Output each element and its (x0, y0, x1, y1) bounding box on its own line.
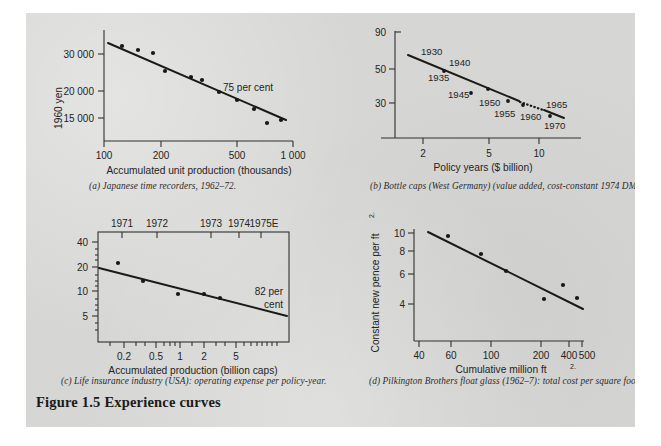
panel-c-ylabel-40: 40 (77, 237, 89, 248)
panel-a-xlabel-200: 200 (153, 150, 170, 161)
panel-c-life-insurance: 1971 1972 1973 1974 1975E (26, 203, 331, 388)
panel-a-ylabel-30000: 30 000 (63, 49, 94, 60)
panel-c-ylabel-10: 10 (77, 286, 89, 297)
panel-c-toplabel-1975e: 1975E (250, 218, 279, 229)
panel-d-ylabel-6: 6 (399, 269, 405, 280)
data-point (163, 69, 167, 73)
panel-b-chart: 90 50 30 2 5 10 Policy years ($ billion) (331, 13, 635, 188)
panel-c-data-points (116, 261, 222, 300)
panel-b-ylabel-50: 50 (375, 64, 387, 75)
panel-c-xlabel-1: 1 (177, 351, 183, 362)
panel-b-xlabel-5: 5 (486, 148, 492, 159)
data-point (446, 234, 450, 238)
panel-c-xlabel-0-2: 0.2 (117, 351, 131, 362)
data-point (506, 99, 510, 103)
panel-b-xlabel-2: 2 (420, 148, 426, 159)
panel-d-xlabel-400: 400 (561, 350, 578, 361)
panel-b-point-label-1970: 1970 (544, 120, 565, 131)
panel-b-point-label-1935: 1935 (428, 72, 449, 83)
panel-d-ylabel-superscript: 2. (368, 212, 375, 218)
panel-c-ylabel-20: 20 (77, 262, 89, 273)
panel-c-toplabel-1973: 1973 (200, 218, 223, 229)
panel-d-xlabel-200: 200 (533, 350, 550, 361)
panel-a-japanese-time-recorders: 1960 yen 30 000 20 000 15 000 100 200 50… (26, 13, 331, 188)
panel-c-x-minor-ticks (110, 342, 277, 346)
panel-b-xlabel: Policy years ($ billion) (433, 162, 532, 173)
panel-a-ylabel: 1960 yen (53, 87, 64, 129)
panel-d-ylabel-4: 4 (399, 299, 405, 310)
panel-d-caption: (d) Pilkington Brothers float glass (196… (369, 376, 635, 386)
panel-b-point-label-1945: 1945 (448, 89, 469, 100)
panel-c-xlabel: Accumulated production (billion caps) (108, 365, 277, 376)
panel-a-xlabel-500: 500 (229, 150, 246, 161)
panel-a-annotation: 75 per cent (223, 82, 273, 93)
panel-d-xlabel-superscript: 2. (570, 363, 576, 370)
panel-d-pilkington-float-glass: Constant new pence per ft 2. 10 8 6 4 (331, 203, 635, 388)
data-point (521, 103, 525, 107)
data-point (279, 118, 283, 122)
panel-b-point-label-1965: 1965 (546, 99, 567, 110)
scanned-book-page: 1960 yen 30 000 20 000 15 000 100 200 50… (26, 13, 635, 427)
data-point (151, 51, 155, 55)
panel-a-chart: 1960 yen 30 000 20 000 15 000 100 200 50… (26, 13, 331, 188)
panel-c-toplabel-1972: 1972 (146, 218, 169, 229)
data-point (116, 261, 120, 265)
data-point (189, 75, 193, 79)
panel-d-ylabel-10: 10 (394, 228, 406, 239)
panel-c-xlabel-5: 5 (233, 351, 239, 362)
data-point (504, 269, 508, 273)
data-point (575, 296, 579, 300)
data-point (200, 78, 204, 82)
data-point (479, 252, 483, 256)
data-point (265, 121, 269, 125)
data-point (548, 114, 552, 118)
panel-b-xlabel-10: 10 (533, 148, 545, 159)
panel-a-xlabel-100: 100 (96, 150, 113, 161)
panel-c-ylabel-5: 5 (82, 311, 88, 322)
panel-c-annotation-line1: 82 per (255, 286, 284, 297)
panel-b-point-label-1950: 1950 (479, 97, 500, 108)
panel-c-xlabel-2: 2 (201, 351, 207, 362)
data-point (561, 283, 565, 287)
data-point (120, 44, 124, 48)
data-point (542, 297, 546, 301)
panel-b-ylabel-30: 30 (375, 98, 387, 109)
panel-d-chart: Constant new pence per ft 2. 10 8 6 4 (331, 203, 635, 388)
data-point (218, 296, 222, 300)
panel-d-data-points (446, 234, 579, 301)
data-point (202, 292, 206, 296)
panel-a-xlabel: Accumulated unit production (thousands) (106, 165, 291, 176)
panel-d-xlabel-500: 500 (579, 350, 596, 361)
panel-b-point-label-1930: 1930 (421, 46, 442, 57)
panel-d-xlabel-100: 100 (483, 350, 500, 361)
panel-b-bottle-caps: 90 50 30 2 5 10 Policy years ($ billion) (331, 13, 635, 188)
panel-b-point-label-1940: 1940 (449, 57, 470, 68)
panel-a-ylabel-15000: 15 000 (63, 113, 94, 124)
data-point (217, 90, 221, 94)
data-point (469, 91, 473, 95)
panel-c-caption: (c) Life insurance industry (USA): opera… (61, 376, 326, 386)
panel-c-toplabel-1971: 1971 (111, 218, 134, 229)
panel-b-point-label-1955: 1955 (494, 108, 515, 119)
data-point (136, 48, 140, 52)
page-canvas: 1960 yen 30 000 20 000 15 000 100 200 50… (0, 0, 661, 446)
panel-d-xlabel-40: 40 (413, 350, 425, 361)
panel-b-ylabel-90: 90 (375, 27, 387, 38)
figure-title: Figure 1.5 Experience curves (36, 394, 221, 411)
panel-b-caption: (b) Bottle caps (West Germany) (value ad… (370, 181, 635, 191)
panel-c-annotation-line2: cent (264, 299, 283, 310)
panel-d-xlabel-60: 60 (445, 350, 457, 361)
panel-a-xlabel-1000: 1 000 (280, 150, 305, 161)
data-point (141, 279, 145, 283)
panel-c-chart: 1971 1972 1973 1974 1975E (26, 203, 331, 388)
data-point (176, 292, 180, 296)
panel-a-caption: (a) Japanese time recorders, 1962–72. (89, 181, 236, 191)
panel-d-xlabel: Cumulative million ft (455, 364, 546, 375)
panel-c-xlabel-0-5: 0.5 (149, 351, 163, 362)
panel-d-ylabel-8: 8 (399, 246, 405, 257)
panel-c-toplabel-1974: 1974 (228, 218, 251, 229)
panel-d-ylabel: Constant new pence per ft (370, 233, 381, 352)
data-point (252, 107, 256, 111)
panel-a-ylabel-20000: 20 000 (63, 86, 94, 97)
data-point (235, 98, 239, 102)
